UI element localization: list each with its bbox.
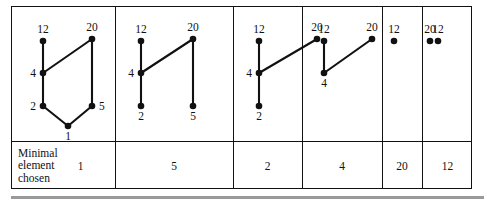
heap-node-label-12: 12 [318,23,330,35]
heap-graph-6: 12 [422,7,473,141]
heap-node-12 [321,38,328,45]
heap-node-label-12: 12 [135,23,147,35]
minimal-element-value-3: 2 [265,160,271,172]
table-frame: 12204251122042512204212204122012 Minimal… [11,6,472,189]
heap-cell-2: 1220425 [115,7,233,141]
bottom-rule [11,196,484,199]
heap-node-12 [138,38,145,45]
heap-node-12 [391,38,398,45]
heap-node-label-2: 2 [138,110,144,122]
heap-node-4 [40,70,47,77]
heap-node-5 [89,103,96,110]
heap-cell-5: 1220 [382,7,422,141]
heap-node-label-20: 20 [366,21,378,33]
caption-cell-2: 5 [115,141,233,190]
heap-node-2 [40,103,47,110]
heap-node-label-2: 2 [30,100,36,112]
heap-node-label-4: 4 [246,67,252,79]
caption-cell-4: 4 [302,141,382,190]
heap-node-label-12: 12 [253,23,265,35]
heap-edge-2-1 [43,106,68,126]
minimal-element-value-2: 5 [171,160,177,172]
caption-cell-1: Minimal element chosen1 [12,141,121,190]
heap-edge-4-20 [324,39,372,73]
heap-node-4 [138,70,145,77]
heap-node-label-20: 20 [86,21,98,33]
heap-cell-3: 122042 [233,7,302,141]
heap-node-4 [256,70,263,77]
heap-node-label-4: 4 [321,77,327,89]
heap-node-5 [190,103,197,110]
caption-cell-5: 20 [382,141,422,190]
heap-cell-6: 12 [422,7,473,141]
heap-node-label-12: 12 [432,23,444,35]
heap-graph-2: 1220425 [115,7,233,141]
heap-graph-5: 1220 [382,7,422,141]
heap-node-12 [256,38,263,45]
heap-graph-4: 12204 [302,7,382,141]
heap-node-20 [369,36,376,43]
heap-node-2 [256,103,263,110]
heap-node-label-12: 12 [37,23,49,35]
heap-node-label-20: 20 [187,21,199,33]
heap-edge-4-20 [43,39,92,73]
heap-node-12 [435,38,442,45]
heap-edge-5-1 [68,106,92,126]
heap-node-4 [321,70,328,77]
heap-graph-1: 12204251 [12,7,115,141]
heap-node-label-5: 5 [99,100,105,112]
heap-node-2 [138,103,145,110]
heap-cell-4: 12204 [302,7,382,141]
heap-edge-4-20 [141,39,193,73]
minimal-element-value-4: 4 [339,160,345,172]
heap-node-label-12: 12 [388,23,400,35]
heap-node-label-2: 2 [256,110,262,122]
minimal-element-value-5: 20 [396,160,408,172]
caption-cell-3: 2 [233,141,302,190]
heap-node-label-4: 4 [128,67,134,79]
caption-row-label: Minimal element chosen [18,147,58,185]
heap-graph-3: 122042 [233,7,302,141]
heap-node-20 [190,36,197,43]
heap-sequence-figure: 12204251122042512204212204122012 Minimal… [0,0,494,207]
minimal-element-value-1: 1 [78,160,84,172]
heap-cell-1: 12204251 [12,7,115,141]
heap-node-1 [65,123,72,130]
caption-cell-6: 12 [422,141,473,190]
heap-node-label-5: 5 [190,110,196,122]
heap-node-20 [89,36,96,43]
heap-node-12 [40,38,47,45]
minimal-element-value-6: 12 [442,160,454,172]
heap-node-label-4: 4 [30,67,36,79]
